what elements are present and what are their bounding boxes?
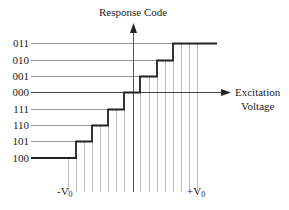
code-label-111: 111 <box>2 103 29 115</box>
y-axis-arrow-icon <box>130 23 137 33</box>
y-axis <box>130 23 137 192</box>
negative-limit-label: -V0 <box>57 185 73 201</box>
code-label-100: 100 <box>2 152 29 164</box>
code-label-101: 101 <box>2 135 29 147</box>
positive-limit-label: +V0 <box>187 185 205 201</box>
code-label-011: 011 <box>2 37 29 49</box>
code-label-001: 001 <box>2 70 29 82</box>
y-axis-title: Response Code <box>99 6 167 18</box>
code-label-110: 110 <box>2 119 29 131</box>
x-axis-title-line2: Voltage <box>241 100 274 112</box>
x-axis-title-line1: Excitation <box>235 86 280 98</box>
x-axis-arrow-icon <box>221 89 231 96</box>
code-label-000: 000 <box>2 86 29 98</box>
code-label-010: 010 <box>2 54 29 66</box>
